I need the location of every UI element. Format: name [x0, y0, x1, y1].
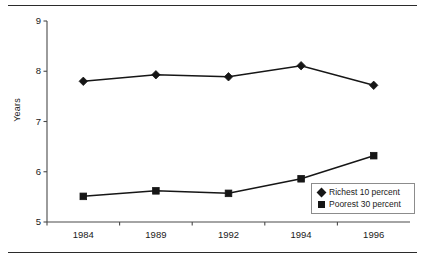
data-point-marker: [79, 77, 87, 85]
legend-item-richest: Richest 10 percent: [316, 186, 409, 198]
x-tick-label: 1992: [206, 229, 252, 240]
x-tick-label: 1989: [133, 229, 179, 240]
y-tick-label: 9: [23, 15, 41, 26]
x-tick-label: 1984: [60, 229, 106, 240]
legend-label-richest: Richest 10 percent: [329, 187, 400, 197]
data-point-marker: [153, 188, 160, 195]
line-chart-plot: [0, 0, 425, 262]
data-point-marker: [298, 175, 305, 182]
y-tick-label: 7: [23, 116, 41, 127]
data-point-marker: [80, 193, 87, 200]
diamond-marker-icon: [316, 187, 327, 198]
x-tick-label: 1994: [278, 229, 324, 240]
data-point-marker: [370, 81, 378, 89]
data-point-marker: [225, 190, 232, 197]
data-point-marker: [297, 62, 305, 70]
data-point-marker: [224, 73, 232, 81]
y-tick-label: 5: [23, 216, 41, 227]
square-marker-icon: [316, 199, 327, 210]
x-tick-label: 1996: [351, 229, 397, 240]
chart-figure: Years 56789 19841989199219941996 Richest…: [0, 0, 425, 262]
y-tick-label: 6: [23, 166, 41, 177]
legend-item-poorest: Poorest 30 percent: [316, 198, 409, 210]
y-axis-title: Years: [12, 80, 22, 140]
legend-label-poorest: Poorest 30 percent: [329, 199, 401, 209]
y-tick-label: 8: [23, 65, 41, 76]
data-point-marker: [152, 71, 160, 79]
data-point-marker: [370, 152, 377, 159]
chart-legend: Richest 10 percent Poorest 30 percent: [311, 183, 415, 214]
chart-series: [79, 62, 378, 200]
